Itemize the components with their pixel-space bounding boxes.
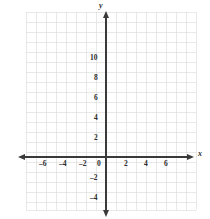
coordinate-grid-figure: x y 0 –6 –4 –2 2 4 6 10 8 6 4 2 –2 –4: [0, 0, 210, 219]
grid-lines: [26, 12, 196, 210]
origin-label: 0: [97, 160, 101, 168]
x-tick-label: –2: [79, 160, 86, 168]
y-tick-label: 2: [94, 134, 98, 142]
x-tick-label: 4: [144, 160, 148, 168]
x-tick-label: 2: [124, 160, 128, 168]
y-axis-arrow-down: [103, 210, 109, 217]
x-tick-label: 6: [164, 160, 168, 168]
x-axis-arrow-right: [187, 154, 194, 160]
y-tick-label: –4: [90, 194, 97, 202]
y-tick-label: 8: [94, 74, 98, 82]
x-tick-label: –4: [59, 160, 66, 168]
y-tick-label: 10: [90, 54, 97, 62]
y-tick-label: 4: [94, 114, 98, 122]
x-tick-label: –6: [39, 160, 46, 168]
y-tick-label: –2: [90, 174, 97, 182]
x-axis-label: x: [198, 150, 202, 158]
y-tick-label: 6: [94, 94, 98, 102]
y-axis-label: y: [99, 2, 103, 10]
plot-area: [0, 0, 210, 219]
x-axis-arrow-left: [18, 154, 25, 160]
